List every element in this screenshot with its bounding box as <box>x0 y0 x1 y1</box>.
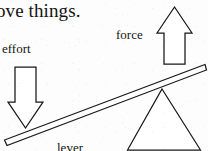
lever-diagram <box>0 0 208 151</box>
page-heading-text: ove things. <box>0 1 81 20</box>
label-effort: effort <box>2 42 31 55</box>
label-lever: lever <box>57 141 83 151</box>
diagram-page: ove things. effort force lever <box>0 0 208 151</box>
triangle-fulcrum <box>128 89 201 150</box>
label-force: force <box>116 28 143 41</box>
up-arrow-icon <box>157 7 192 64</box>
down-arrow-icon <box>8 67 43 128</box>
